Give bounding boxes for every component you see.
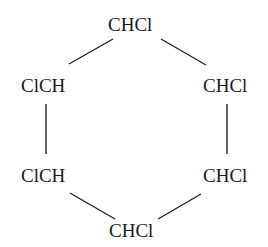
bond-c4-c3 (158, 194, 201, 219)
atom-bottom: CHCl (109, 221, 153, 241)
ring-bonds (0, 0, 268, 247)
atom-upper-left: ClCH (21, 76, 65, 96)
atom-lower-right: CHCl (203, 166, 247, 186)
bond-c1-c2 (161, 39, 206, 65)
atom-upper-right: CHCl (203, 76, 247, 96)
atom-top: CHCl (108, 15, 152, 35)
atom-lower-left: ClCH (21, 166, 65, 186)
bond-c6-c1 (69, 39, 113, 64)
bond-c5-c4 (70, 193, 115, 219)
